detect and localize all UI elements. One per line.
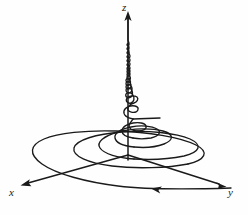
spiral-turn-1 xyxy=(32,131,231,189)
spiral-turn-2 xyxy=(74,131,198,167)
spiral-tail-stub xyxy=(133,118,160,119)
spiral-figure: x y z xyxy=(0,0,248,215)
spiral-converging-coil xyxy=(124,19,138,119)
conical-spiral-curve xyxy=(32,19,231,193)
x-axis-label: x xyxy=(9,187,14,198)
figure-canvas xyxy=(0,0,248,215)
y-axis-label: y xyxy=(228,187,233,198)
curve-direction-arrowhead xyxy=(151,187,162,194)
z-axis-label: z xyxy=(122,2,126,13)
